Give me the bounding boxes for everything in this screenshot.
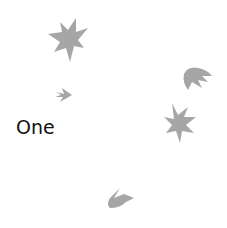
leaf-arrow-icon [54,88,74,104]
leaf-claw-icon [106,188,136,210]
leaf-star-icon [46,16,90,64]
leaf-claw-icon [182,66,214,92]
leaf-star-icon [162,103,198,143]
label-text: One [16,118,55,137]
